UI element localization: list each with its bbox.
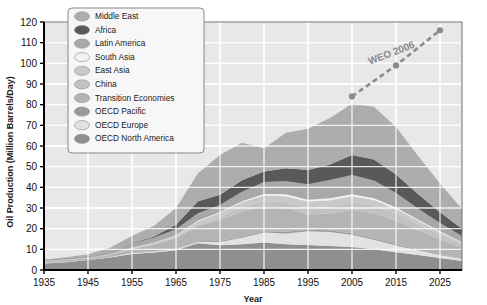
y-tick-label: 110 <box>21 37 37 48</box>
legend-swatch <box>74 80 89 89</box>
legend-swatch <box>74 12 89 21</box>
legend-item-label: South Asia <box>95 52 135 62</box>
y-tick-label: 0 <box>31 265 37 276</box>
y-tick-label: 90 <box>26 79 38 90</box>
weo-2006-marker <box>393 62 399 68</box>
x-tick-label: 1975 <box>209 277 232 288</box>
y-tick-label: 40 <box>26 182 38 193</box>
legend-swatch <box>74 107 89 116</box>
y-tick-label: 10 <box>26 244 38 255</box>
legend-swatch <box>74 53 89 62</box>
legend-item-label: OECD Pacific <box>95 106 146 116</box>
y-tick-label: 80 <box>26 99 38 110</box>
y-tick-label: 100 <box>20 58 37 69</box>
weo-2006-marker <box>349 93 355 99</box>
legend-item-latin-america[interactable]: Latin America <box>74 38 145 48</box>
y-tick-label: 50 <box>26 161 38 172</box>
legend-swatch <box>74 121 89 130</box>
oil-production-stacked-area-chart: WEO 2006 0102030405060708090100110120 19… <box>0 0 487 305</box>
chart-container: WEO 2006 0102030405060708090100110120 19… <box>0 0 487 305</box>
x-tick-label: 1965 <box>165 277 188 288</box>
legend-item-east-asia[interactable]: East Asia <box>74 65 130 75</box>
y-tick-label: 70 <box>26 120 38 131</box>
x-tick-label: 1955 <box>121 277 144 288</box>
x-tick-label: 1985 <box>253 277 276 288</box>
legend-item-label: OECD North America <box>95 133 174 143</box>
weo-2006-marker <box>437 27 443 33</box>
legend-swatch <box>74 25 89 34</box>
legend-item-label: East Asia <box>95 65 130 75</box>
legend-item-label: China <box>95 79 117 89</box>
x-tick-label: 2025 <box>429 277 452 288</box>
legend-swatch <box>74 39 89 48</box>
legend-swatch <box>74 66 89 75</box>
legend-item-oecd-europe[interactable]: OECD Europe <box>74 120 148 130</box>
legend-item-label: OECD Europe <box>95 120 148 130</box>
x-tick-label: 1935 <box>33 277 56 288</box>
y-tick-label: 20 <box>26 223 38 234</box>
legend-item-middle-east[interactable]: Middle East <box>74 11 139 21</box>
legend-item-oecd-pacific[interactable]: OECD Pacific <box>74 106 145 116</box>
y-axis-title: Oil Production (Million Barrels/Day) <box>5 76 15 228</box>
legend-swatch <box>74 93 89 102</box>
x-tick-label: 2015 <box>385 277 408 288</box>
x-tick-label: 1995 <box>297 277 320 288</box>
legend-item-label: Transition Economies <box>95 93 174 103</box>
legend-item-label: Latin America <box>95 38 146 48</box>
y-tick-label: 120 <box>20 17 37 28</box>
x-tick-label: 1945 <box>77 277 100 288</box>
legend-item-label: Middle East <box>95 11 139 21</box>
legend-item-china[interactable]: China <box>74 79 117 89</box>
legend-item-south-asia[interactable]: South Asia <box>74 52 135 62</box>
x-axis-title: Year <box>243 294 263 304</box>
legend-item-label: Africa <box>95 25 117 35</box>
y-tick-label: 60 <box>26 141 38 152</box>
legend-swatch <box>74 134 89 143</box>
legend-item-africa[interactable]: Africa <box>74 25 116 35</box>
chart-legend[interactable]: Middle EastAfricaLatin AmericaSouth Asia… <box>68 8 204 153</box>
y-tick-label: 30 <box>26 203 38 214</box>
x-tick-label: 2005 <box>341 277 364 288</box>
